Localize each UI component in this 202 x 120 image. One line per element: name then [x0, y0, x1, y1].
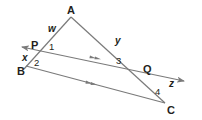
label-segment-z: z	[168, 78, 174, 89]
label-angle-4: 4	[155, 86, 160, 97]
label-point-a: A	[67, 4, 75, 16]
label-point-q: Q	[143, 63, 152, 75]
triangle-diagram: A P B Q C w y x z 1 2 3 4	[0, 0, 202, 120]
parallel-mark-bc-icon	[86, 81, 98, 85]
label-point-p: P	[31, 39, 38, 51]
label-angle-1: 1	[49, 41, 54, 52]
label-point-b: B	[17, 65, 25, 77]
parallel-mark-pq-icon	[89, 55, 101, 59]
label-point-c: C	[167, 104, 175, 116]
label-segment-w: w	[48, 23, 57, 34]
diagram-canvas: A P B Q C w y x z 1 2 3 4	[0, 0, 202, 120]
label-angle-3: 3	[116, 55, 121, 66]
label-segment-x: x	[21, 52, 28, 63]
label-segment-y: y	[114, 35, 121, 46]
label-angle-2: 2	[34, 57, 39, 68]
line-pq	[36, 50, 184, 81]
